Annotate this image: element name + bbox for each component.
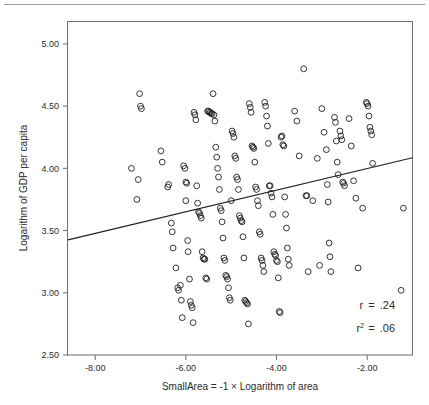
data-point — [366, 113, 372, 119]
data-point — [262, 99, 268, 105]
data-point — [173, 265, 179, 271]
x-tick-label: -4.00 — [266, 363, 287, 373]
data-point — [194, 183, 200, 189]
statistics-annotations: r=.24 r2=.06 — [356, 299, 395, 334]
data-point — [319, 106, 325, 112]
data-point — [360, 205, 366, 211]
data-point — [158, 148, 164, 154]
y-tick-label: 3.00 — [41, 288, 59, 298]
x-tick-label: -6.00 — [176, 363, 197, 373]
r-squared-superscript: 2 — [360, 321, 364, 330]
y-tick-label: 5.00 — [41, 39, 59, 49]
data-point — [348, 143, 354, 149]
data-point — [317, 263, 323, 269]
data-point — [187, 276, 193, 282]
data-point — [179, 315, 185, 321]
x-axis-title: SmallArea = -1 × Logarithm of area — [162, 381, 319, 392]
data-point — [292, 108, 298, 114]
data-point — [134, 197, 140, 203]
data-point — [334, 159, 340, 165]
data-point — [212, 118, 218, 124]
data-point — [215, 165, 221, 171]
data-point — [265, 123, 271, 129]
data-point — [183, 198, 189, 204]
data-point — [220, 235, 226, 241]
regression-line — [68, 158, 413, 240]
data-point — [231, 134, 237, 140]
x-tick-label: -8.00 — [85, 363, 106, 373]
data-point — [326, 240, 332, 246]
data-point — [169, 229, 175, 235]
data-point — [284, 245, 290, 251]
data-point — [178, 297, 184, 303]
data-point — [324, 182, 330, 188]
data-point — [185, 238, 191, 244]
data-point — [339, 137, 345, 143]
data-point — [296, 153, 302, 159]
data-point — [401, 205, 407, 211]
y-tick-label: 4.50 — [41, 101, 59, 111]
data-point — [283, 211, 289, 217]
data-point — [213, 144, 219, 150]
data-point — [398, 287, 404, 293]
data-point — [323, 147, 329, 153]
r-squared-annotation: r2=.06 — [356, 321, 395, 334]
y-tick-label: 2.50 — [41, 350, 59, 360]
data-points-group — [129, 66, 407, 327]
data-point — [265, 141, 271, 147]
data-point — [263, 103, 269, 109]
x-axis-ticks: -8.00-6.00-4.00-2.00 — [85, 355, 377, 373]
data-point — [240, 234, 246, 240]
data-point — [275, 275, 281, 281]
data-point — [137, 91, 143, 97]
data-point — [170, 245, 176, 251]
r-squared-value: .06 — [380, 322, 395, 334]
data-point — [270, 211, 276, 217]
data-point — [301, 66, 307, 72]
y-axis-title: Logarithm of GDP per capita — [18, 124, 29, 251]
data-point — [353, 195, 359, 201]
data-point — [216, 174, 222, 180]
data-point — [187, 299, 193, 305]
data-point — [370, 160, 376, 166]
data-point — [333, 138, 339, 144]
data-point — [159, 159, 165, 165]
data-point — [185, 249, 191, 255]
data-point — [195, 200, 201, 206]
data-point — [226, 285, 232, 291]
data-point — [129, 165, 135, 171]
data-point — [269, 194, 275, 200]
data-point — [325, 199, 331, 205]
data-point — [219, 219, 225, 225]
x-tick-label: -2.00 — [357, 363, 378, 373]
data-point — [305, 269, 311, 275]
data-point — [327, 254, 333, 260]
data-point — [367, 124, 373, 130]
data-point — [321, 129, 327, 135]
data-point — [286, 263, 292, 269]
data-point — [368, 128, 374, 134]
data-point — [252, 159, 258, 165]
data-point — [282, 194, 288, 200]
data-point — [264, 113, 270, 119]
data-point — [285, 256, 291, 262]
data-point — [168, 220, 174, 226]
data-point — [310, 198, 316, 204]
data-point — [294, 118, 300, 124]
data-point — [314, 155, 320, 161]
y-axis-ticks: 2.503.003.504.004.505.00 — [41, 39, 68, 360]
data-point — [369, 132, 375, 138]
regression-line-group — [68, 158, 413, 240]
y-tick-label: 3.50 — [41, 226, 59, 236]
r-squared-operator: = — [368, 322, 374, 334]
data-point — [199, 249, 205, 255]
data-point — [190, 320, 196, 326]
data-point — [236, 187, 242, 193]
data-point — [217, 187, 223, 193]
data-point — [210, 91, 216, 97]
data-point — [284, 225, 290, 231]
data-point — [246, 101, 252, 107]
correlation-operator: = — [368, 299, 374, 311]
data-point — [261, 269, 267, 275]
correlation-label: r — [360, 299, 364, 311]
